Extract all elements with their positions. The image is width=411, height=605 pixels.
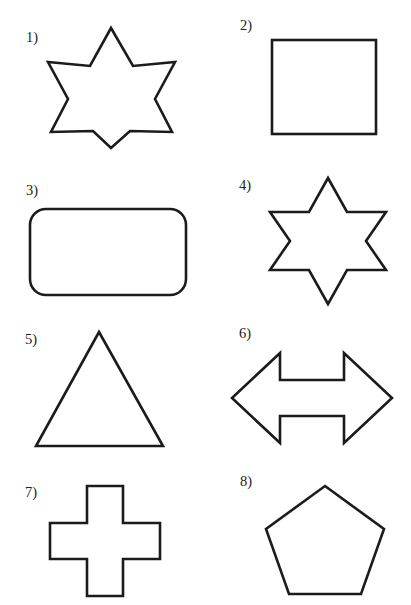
shape-label-7: 7) xyxy=(25,485,37,500)
cross-icon xyxy=(43,481,167,605)
shape-label-8: 8) xyxy=(240,474,252,489)
square-icon xyxy=(268,36,382,140)
seven-pointed-star-icon xyxy=(44,22,178,154)
six-pointed-star-icon xyxy=(264,173,392,309)
shape-label-2: 2) xyxy=(240,18,252,33)
shape-label-4: 4) xyxy=(239,178,251,193)
triangle-icon xyxy=(32,327,168,452)
shape-label-3: 3) xyxy=(26,183,38,198)
pentagon-icon xyxy=(260,481,390,601)
shape-label-6: 6) xyxy=(239,326,251,341)
worksheet-canvas: 1) 2) 3) 4) 5) 6) xyxy=(0,0,411,605)
shape-label-1: 1) xyxy=(26,30,38,45)
double-headed-arrow-icon xyxy=(227,348,397,448)
rounded-rectangle-icon xyxy=(26,205,192,301)
